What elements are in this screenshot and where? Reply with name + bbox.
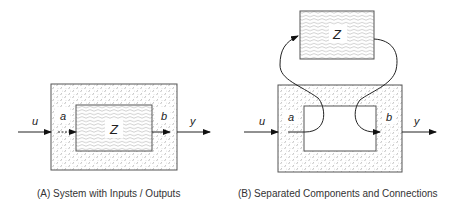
component-z-label: Z	[109, 122, 119, 137]
diagram-canvas: Z u a b y Z u a b y	[0, 0, 455, 208]
label-a: a	[288, 111, 294, 123]
label-a: a	[60, 110, 66, 122]
empty-slot-box	[304, 106, 376, 151]
label-u: u	[259, 115, 265, 127]
label-y: y	[189, 115, 197, 127]
label-u: u	[32, 115, 38, 127]
label-y: y	[413, 115, 421, 127]
label-b: b	[386, 111, 392, 123]
label-b: b	[161, 110, 167, 122]
diagram-b: Z u a b y	[244, 11, 436, 172]
component-z-label: Z	[332, 27, 342, 42]
caption-b: (B) Separated Components and Connections	[238, 188, 438, 199]
diagram-a: Z u a b y	[18, 84, 210, 170]
caption-a: (A) System with Inputs / Outputs	[37, 188, 180, 199]
